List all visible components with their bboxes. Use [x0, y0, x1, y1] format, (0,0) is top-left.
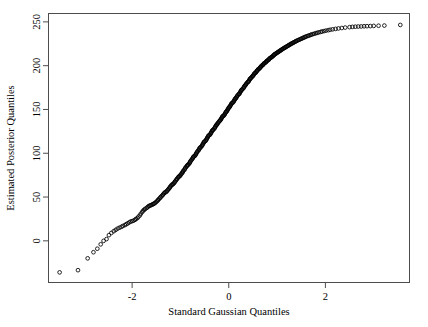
x-axis-title: Standard Gaussian Quantiles: [168, 306, 289, 317]
y-tick-label: 150: [31, 102, 42, 118]
data-point: [398, 23, 402, 27]
data-points-group: [58, 23, 402, 274]
x-tick-label: 0: [226, 291, 231, 302]
y-tick-label: 200: [31, 58, 42, 74]
data-point: [92, 250, 96, 254]
data-point: [95, 247, 99, 251]
data-point: [99, 242, 103, 246]
data-point: [76, 268, 80, 272]
data-point: [383, 24, 387, 28]
data-point: [86, 257, 90, 261]
y-tick-label: 250: [31, 14, 42, 30]
y-tick-label: 50: [31, 192, 42, 203]
data-point: [58, 271, 62, 275]
y-axis-title: Estimated Posterior Quantiles: [5, 85, 16, 210]
data-point: [105, 237, 109, 241]
x-tick-label: 2: [323, 291, 328, 302]
tick-labels-group: -202050100150200250: [31, 14, 328, 302]
y-tick-label: 0: [31, 238, 42, 243]
qq-plot-svg: -202050100150200250 Standard Gaussian Qu…: [0, 0, 428, 327]
x-tick-label: -2: [128, 291, 137, 302]
tick-marks-group: [43, 22, 325, 288]
data-point: [377, 24, 381, 28]
qq-plot-figure: -202050100150200250 Standard Gaussian Qu…: [0, 0, 428, 327]
y-tick-label: 100: [31, 145, 42, 161]
